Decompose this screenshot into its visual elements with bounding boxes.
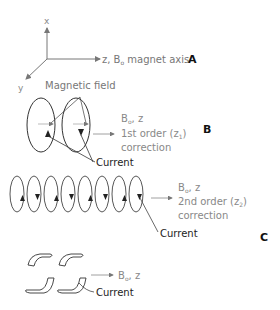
magnetic-field-label: Magnetic field: [45, 80, 116, 91]
second-order-label: 2nd order (z2): [178, 196, 247, 208]
first-order-label: 1st order (z1): [121, 128, 187, 140]
correction-label-c: correction: [178, 210, 228, 221]
saddle-coils: Bo, z Current: [26, 254, 141, 298]
z-axis-label: z, Bo magnet axis: [102, 54, 189, 66]
x-axis-label: x: [44, 16, 50, 26]
first-order-coil-pair: Magnetic field Bo, z 1st order (z1) corr…: [27, 80, 211, 168]
coil-loop-2: [62, 98, 90, 152]
correction-label-b: correction: [121, 142, 171, 153]
y-axis-label: y: [18, 83, 24, 93]
shim-coil-diagram: x y z, Bo magnet axis A Magnetic field B…: [0, 0, 280, 310]
panel-letter-b: B: [203, 123, 211, 136]
panel-letter-a: A: [188, 53, 197, 66]
bo-z-label-c: Bo, z: [178, 182, 200, 194]
coil-loop-1: [27, 98, 55, 152]
current-label-b: Current: [96, 157, 134, 168]
panel-letter-c: C: [260, 231, 268, 244]
bo-z-label-b: Bo, z: [121, 113, 143, 125]
second-order-coil-array: Bo, z 2nd order (z2) correction Current …: [10, 176, 268, 244]
bo-z-label-d: Bo, z: [118, 270, 140, 282]
current-label-c: Current: [160, 228, 198, 239]
current-label-d: Current: [96, 287, 134, 298]
